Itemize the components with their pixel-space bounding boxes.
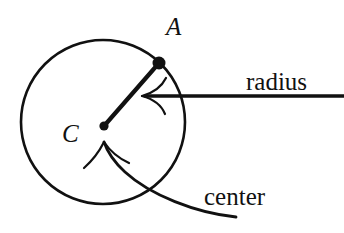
point-a-dot	[153, 57, 166, 70]
circle-diagram: A C radius center	[0, 0, 344, 233]
point-c-dot	[99, 121, 108, 130]
radius-arrowhead-lower-barb	[142, 96, 165, 114]
label-point-c: C	[62, 121, 79, 146]
label-callout-radius: radius	[246, 69, 307, 94]
label-point-a: A	[166, 14, 181, 39]
label-callout-center: center	[204, 184, 265, 209]
center-arrowhead-left-barb	[84, 142, 104, 168]
